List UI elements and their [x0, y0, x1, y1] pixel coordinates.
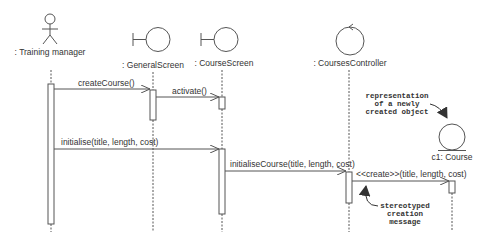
message-label: initialiseCourse(title, length, cost) — [230, 159, 355, 169]
svg-text:created object: created object — [365, 108, 428, 116]
control-icon — [336, 24, 364, 55]
lifeline-course-screen: : CourseScreen — [194, 28, 253, 233]
activation-bar — [346, 172, 352, 203]
message-create-course: createCourse() — [54, 78, 150, 89]
pointer-arrow-icon — [430, 104, 447, 118]
message-initialise-course: initialiseCourse(title, length, cost) — [225, 159, 355, 171]
sequence-diagram: : Training manager : GeneralScreen : Cou… — [0, 0, 489, 244]
message-label: initialise(title, length, cost) — [61, 137, 158, 147]
message-activate: activate() — [156, 86, 219, 97]
message-label: activate() — [172, 86, 207, 96]
svg-text:creation: creation — [387, 210, 424, 218]
note-new-object: representation of a newly created object — [365, 92, 447, 118]
lifeline-label: : CourseScreen — [194, 58, 253, 68]
entity-icon — [438, 124, 466, 151]
lifeline-label: : CoursesController — [313, 58, 386, 68]
activation-bar — [48, 84, 54, 224]
lifeline-training-manager: : Training manager — [15, 14, 86, 232]
activation-bar — [150, 90, 156, 120]
boundary-icon — [133, 28, 170, 52]
message-initialise: initialise(title, length, cost) — [54, 137, 219, 149]
message-label: <<create>>(title, length, cost) — [356, 169, 467, 179]
lifeline-label: c1: Course — [431, 152, 472, 162]
activation-bar — [449, 181, 455, 193]
lifeline-label: : Training manager — [15, 47, 86, 57]
lifeline-label: : GeneralScreen — [122, 60, 184, 70]
svg-text:representation: representation — [365, 92, 429, 100]
activation-bar — [219, 149, 225, 214]
svg-text:of a newly: of a newly — [374, 100, 420, 108]
lifeline-courses-controller: : CoursesController — [313, 24, 386, 232]
pointer-arrow-icon — [366, 186, 379, 206]
boundary-icon — [201, 28, 238, 52]
svg-text:stereotyped: stereotyped — [380, 202, 430, 210]
activation-bar — [219, 97, 225, 109]
actor-icon — [42, 14, 58, 44]
message-label: createCourse() — [78, 78, 135, 88]
lifeline-general-screen: : GeneralScreen — [122, 28, 184, 233]
svg-text:message: message — [389, 218, 421, 226]
note-stereotype: stereotyped creation message — [366, 186, 430, 226]
message-create-c1: <<create>>(title, length, cost) — [352, 169, 467, 181]
